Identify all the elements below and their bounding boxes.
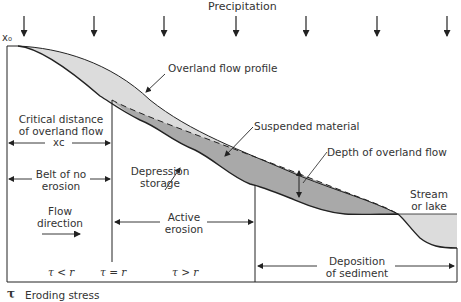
critical-distance-line1: Critical distance [12, 113, 110, 125]
stream-line1: Stream [403, 188, 455, 200]
stream-line2: or lake [403, 200, 455, 212]
flow-direction-label: Flow direction [30, 205, 90, 229]
depression-storage-line2: storage [124, 177, 196, 189]
depth-of-overland-flow-label: Depth of overland flow [327, 146, 447, 158]
legend-tau-symbol: τ [7, 288, 15, 300]
deposition-of-sediment-label: Deposition of sediment [318, 255, 396, 279]
flow-direction-line2: direction [30, 217, 90, 229]
tau-greater-than-r: τ > r [172, 266, 198, 278]
xc-label: xᴄ [53, 137, 64, 149]
tau-less-than-r: τ < r [48, 266, 74, 278]
depression-storage-label: Depression storage [124, 165, 196, 189]
active-erosion-label: Active erosion [155, 211, 213, 235]
suspended-material-label: Suspended material [254, 120, 360, 132]
tau-equals-r: τ = r [100, 266, 126, 278]
active-erosion-line1: Active [155, 211, 213, 223]
depression-storage-line1: Depression [124, 165, 196, 177]
origin-label: x₀ [2, 32, 12, 44]
overland-flow-profile-label: Overland flow profile [168, 62, 277, 74]
belt-line1: Belt of no [22, 168, 100, 180]
precipitation-title: Precipitation [208, 1, 277, 13]
precipitation-arrows [24, 16, 447, 36]
belt-line2: erosion [22, 180, 100, 192]
legend-eroding-stress: Eroding stress [25, 289, 99, 301]
deposition-line2: of sediment [318, 267, 396, 279]
flow-direction-line1: Flow [30, 205, 90, 217]
stream-or-lake-label: Stream or lake [403, 188, 455, 212]
belt-of-no-erosion-label: Belt of no erosion [22, 168, 100, 192]
critical-distance-line2: of overland flow [12, 125, 110, 137]
deposition-line1: Deposition [318, 255, 396, 267]
critical-distance-label: Critical distance of overland flow [12, 113, 110, 137]
active-erosion-line2: erosion [155, 223, 213, 235]
